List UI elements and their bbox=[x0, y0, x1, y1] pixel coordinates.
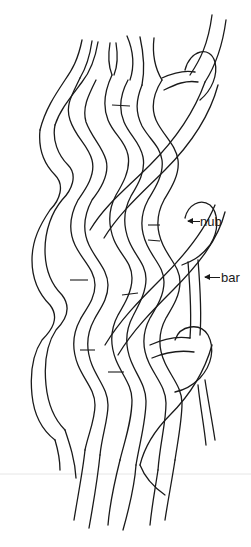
nub-arrow-icon bbox=[188, 221, 200, 222]
bar-label: bar bbox=[221, 271, 240, 284]
bar-arrow-icon bbox=[205, 277, 220, 278]
nub-label: nub bbox=[200, 215, 222, 228]
braid-illustration bbox=[0, 0, 251, 547]
braid-strands bbox=[31, 15, 226, 530]
